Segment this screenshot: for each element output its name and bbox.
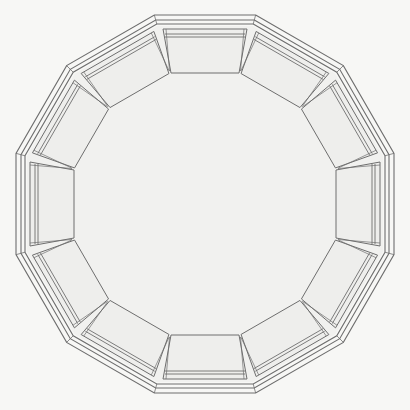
panel-body: [163, 29, 247, 73]
floor-polygon: [27, 26, 383, 382]
panel-10: [30, 162, 74, 246]
panel-4: [336, 162, 380, 246]
panel-7: [163, 335, 247, 379]
panel-1: [163, 29, 247, 73]
panel-body: [163, 335, 247, 379]
panel-body: [30, 162, 74, 246]
dodecagon-plan: [0, 0, 410, 410]
panel-body: [336, 162, 380, 246]
diagram-canvas: [0, 0, 410, 410]
floor-area: [27, 26, 383, 382]
